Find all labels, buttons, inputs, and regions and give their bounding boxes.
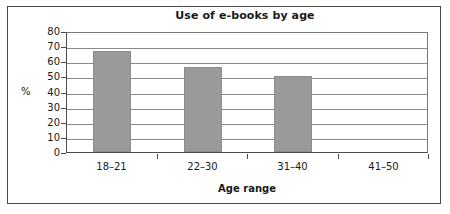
y-axis-tick (61, 77, 66, 78)
y-axis-tick-label: 70 (30, 42, 60, 52)
y-axis-tick (61, 153, 66, 154)
y-axis-tick-label: 0 (30, 148, 60, 158)
y-axis-tick-label: 40 (30, 88, 60, 98)
x-axis-tick (428, 154, 429, 159)
y-axis-tick-labels: 80706050403020100 (26, 32, 60, 153)
x-axis-tick (338, 154, 339, 159)
gridline (67, 48, 427, 49)
y-axis-tick-label: 20 (30, 118, 60, 128)
y-axis-tick (61, 108, 66, 109)
x-axis-tick-label: 41–50 (338, 161, 429, 172)
y-axis-tick (61, 47, 66, 48)
y-axis-tick-label: 30 (30, 103, 60, 113)
x-axis-tick-label: 18–21 (66, 161, 157, 172)
y-axis-tick (61, 32, 66, 33)
y-axis-tick-label: 50 (30, 72, 60, 82)
x-axis-tick-label: 31–40 (247, 161, 338, 172)
plot-area (66, 32, 428, 153)
chart-figure: Use of e-books by age % 8070605040302010… (0, 0, 450, 214)
y-axis-tick (61, 123, 66, 124)
bar-22-30 (184, 67, 222, 152)
bar-18-21 (93, 51, 131, 152)
x-axis-title: Age range (66, 183, 428, 194)
y-axis-tick (61, 62, 66, 63)
x-axis-tick (157, 154, 158, 159)
y-axis-tick (61, 138, 66, 139)
chart-title: Use of e-books by age (60, 9, 430, 22)
y-axis-tick-label: 60 (30, 57, 60, 67)
bar-31-40 (274, 76, 312, 152)
y-axis-tick (61, 93, 66, 94)
y-axis-tick-label: 10 (30, 133, 60, 143)
x-axis-tick-label: 22–30 (157, 161, 248, 172)
x-axis-tick (247, 154, 248, 159)
y-axis-tick-label: 80 (30, 27, 60, 37)
